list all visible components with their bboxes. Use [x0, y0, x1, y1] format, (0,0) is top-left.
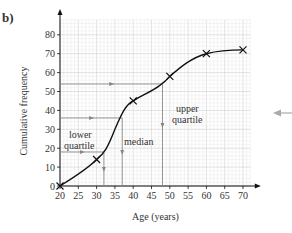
y-tick-label: 0	[50, 181, 55, 192]
y-tick-label: 10	[45, 162, 55, 173]
cumulative-frequency-chart: 202530354045505560657001020304050607080	[0, 0, 292, 233]
x-tick-label: 25	[73, 190, 83, 201]
x-tick-label: 65	[220, 190, 230, 201]
y-tick-label: 30	[45, 124, 55, 135]
y-axis-arrow-icon	[58, 9, 63, 15]
x-tick-label: 60	[201, 190, 211, 201]
guide-arrow-icon	[89, 116, 94, 120]
x-tick-label: 40	[128, 190, 138, 201]
x-tick-label: 30	[92, 190, 102, 201]
median-label: median	[124, 137, 153, 147]
x-tick-label: 20	[55, 190, 65, 201]
x-tick-label: 35	[110, 190, 120, 201]
guide-arrow-icon	[102, 167, 106, 172]
y-tick-label: 60	[45, 67, 55, 78]
x-tick-label: 55	[183, 190, 193, 201]
lower-quartile-label: lower quartile	[66, 130, 95, 151]
y-tick-label: 80	[45, 29, 55, 40]
guide-arrow-icon	[120, 150, 124, 155]
x-tick-label: 50	[165, 190, 175, 201]
x-tick-label: 70	[238, 190, 248, 201]
y-tick-label: 40	[45, 105, 55, 116]
x-axis-label: Age (years)	[132, 212, 179, 222]
x-tick-label: 45	[147, 190, 157, 201]
side-pointer-arrow-icon	[273, 110, 281, 117]
upper-quartile-label: upper quartile	[172, 104, 203, 125]
upper-quartile-line2: quartile	[172, 115, 203, 125]
x-axis-arrow-icon	[255, 184, 261, 189]
y-tick-label: 50	[45, 86, 55, 97]
lower-quartile-line2: quartile	[64, 141, 95, 151]
lower-quartile-line1: lower	[66, 130, 95, 140]
y-tick-label: 20	[45, 143, 55, 154]
upper-quartile-line1: upper	[172, 104, 203, 114]
y-axis-label: Cumulative frequency	[19, 51, 29, 171]
y-tick-label: 70	[45, 48, 55, 59]
guide-arrow-icon	[109, 82, 114, 86]
